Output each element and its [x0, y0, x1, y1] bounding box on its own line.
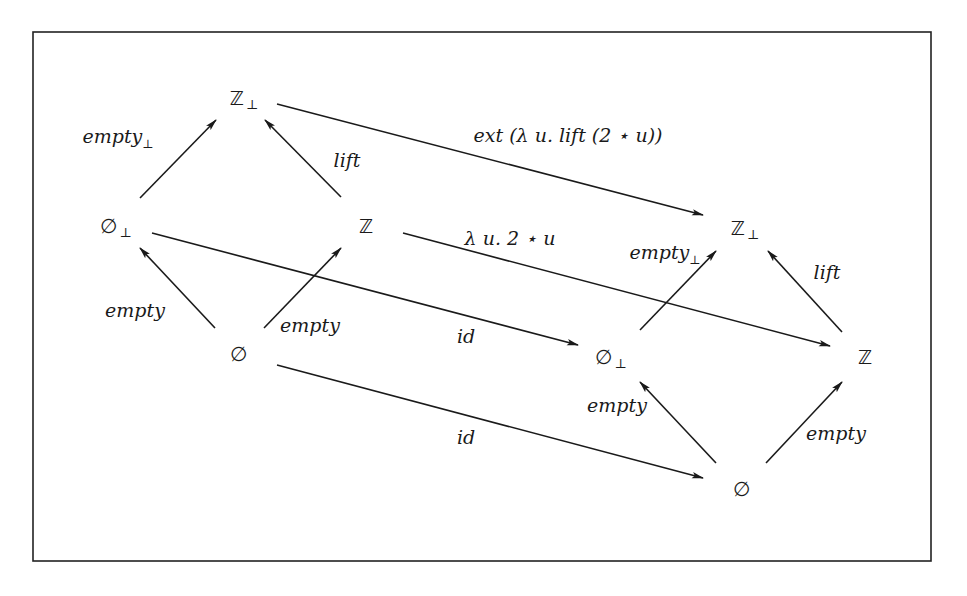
edge-label-text: id	[457, 426, 475, 448]
edge-label-left-empty-1: empty	[105, 301, 165, 320]
arrow-id-top	[152, 233, 578, 345]
edge-label-lambda: λ u. 2 ⋆ u	[465, 229, 556, 248]
edge-label-text: empty	[629, 241, 689, 263]
edge-label-text: empty	[82, 125, 142, 147]
edge-label-right-empty-1: empty	[587, 396, 647, 415]
edge-label-id-bottom: id	[457, 428, 475, 447]
edge-label-text: id	[457, 325, 475, 347]
node-subscript: ⊥	[614, 356, 626, 371]
node-symbol: ℤ	[359, 215, 373, 237]
edge-label-text: ext (λ u. lift (2 ⋆ u))	[474, 124, 663, 146]
node-symbol: ∅	[733, 477, 750, 501]
node-symbol: ∅	[595, 345, 612, 369]
edge-label-text: lift	[334, 149, 361, 171]
edge-label-text: empty	[587, 394, 647, 416]
node-right-z: ℤ	[858, 347, 872, 367]
edge-label-text: λ u. 2 ⋆ u	[465, 227, 556, 249]
node-symbol: ∅	[100, 214, 117, 238]
edge-label-right-lift: lift	[814, 263, 841, 282]
edge-label-text: empty	[280, 314, 340, 336]
edge-label-left-empty-bottom: empty⊥	[82, 127, 153, 146]
node-left-z-bottom: ℤ⊥	[230, 88, 258, 108]
node-symbol: ℤ	[230, 87, 244, 109]
edge-label-left-lift: lift	[334, 151, 361, 170]
node-right-z-bottom: ℤ⊥	[731, 218, 759, 238]
node-right-empty-bottom: ∅⊥	[595, 347, 626, 367]
node-right-empty: ∅	[733, 479, 750, 499]
node-symbol: ∅	[230, 342, 247, 366]
arrow-r-empty-bot	[640, 251, 716, 330]
node-subscript: ⊥	[246, 97, 258, 112]
node-left-z: ℤ	[359, 216, 373, 236]
edge-label-text: empty	[105, 299, 165, 321]
node-left-empty-bottom: ∅⊥	[100, 216, 131, 236]
node-symbol: ℤ	[858, 346, 872, 368]
edge-label-right-empty-bottom: empty⊥	[629, 243, 700, 262]
edge-label-subscript: ⊥	[142, 137, 153, 151]
node-subscript: ⊥	[747, 227, 759, 242]
arrow-l-lift	[265, 120, 341, 197]
arrow-r-empty-1	[640, 382, 716, 463]
arrow-id-bottom	[277, 365, 703, 478]
node-symbol: ℤ	[731, 217, 745, 239]
edge-label-left-empty-2: empty	[280, 316, 340, 335]
edge-label-right-empty-2: empty	[806, 424, 866, 443]
commutative-diagram: ℤ⊥ ∅⊥ ℤ ∅ ℤ⊥ ∅⊥ ℤ ∅ empty⊥ lift empty em…	[0, 0, 967, 596]
diagram-frame	[33, 32, 931, 561]
edge-label-text: lift	[814, 261, 841, 283]
node-subscript: ⊥	[119, 225, 131, 240]
edge-label-subscript: ⊥	[689, 253, 700, 267]
node-left-empty: ∅	[230, 344, 247, 364]
edge-label-ext: ext (λ u. lift (2 ⋆ u))	[474, 126, 663, 145]
edge-label-id-top: id	[457, 327, 475, 346]
edge-label-text: empty	[806, 422, 866, 444]
